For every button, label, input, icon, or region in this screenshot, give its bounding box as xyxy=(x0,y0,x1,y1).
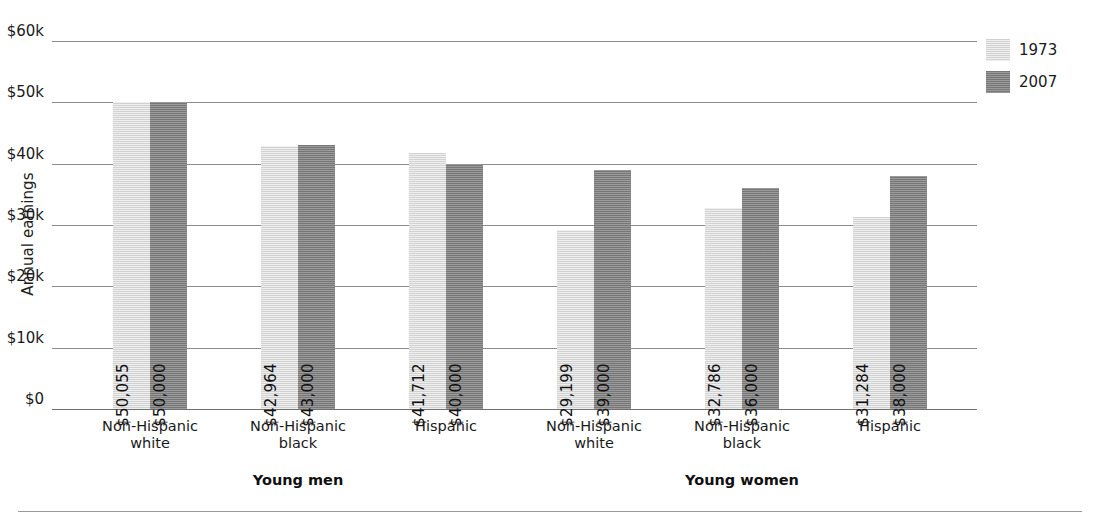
legend-swatch-2007-icon xyxy=(986,71,1010,93)
legend: 1973 2007 xyxy=(986,36,1057,100)
axis-baseline xyxy=(52,409,977,410)
bar-group: $32,786$36,000 xyxy=(705,41,779,409)
group-label: Young men xyxy=(133,472,463,488)
bar-group: $31,284$38,000 xyxy=(853,41,927,409)
bar-2007[interactable]: $38,000 xyxy=(890,176,927,409)
bar-2007[interactable]: $43,000 xyxy=(298,145,335,409)
bar-2007[interactable]: $40,000 xyxy=(446,164,483,409)
y-tick-label: $60k xyxy=(0,22,44,40)
bars-layer: $50,055$50,000$42,964$43,000$41,712$40,0… xyxy=(52,41,977,409)
legend-swatch-1973-icon xyxy=(986,39,1010,61)
y-tick-label: $20k xyxy=(0,267,44,285)
bar-1973[interactable]: $50,055 xyxy=(113,102,150,409)
category-label: Non-Hispanicwhite xyxy=(65,418,235,452)
bar-group: $42,964$43,000 xyxy=(261,41,335,409)
y-tick-label: $40k xyxy=(0,145,44,163)
legend-item-2007[interactable]: 2007 xyxy=(986,68,1057,96)
category-label: Non-Hispanicwhite xyxy=(509,418,679,452)
grouped-bar-chart: Annual earnings $50,055$50,000$42,964$43… xyxy=(0,0,1100,525)
category-label: Non-Hispanicblack xyxy=(657,418,827,452)
bar-1973[interactable]: $41,712 xyxy=(409,153,446,409)
legend-label-1973: 1973 xyxy=(1019,41,1057,59)
category-label-line: black xyxy=(213,435,383,452)
category-label: Non-Hispanicblack xyxy=(213,418,383,452)
bar-1973[interactable]: $29,199 xyxy=(557,230,594,409)
category-label-line: Non-Hispanic xyxy=(657,418,827,435)
bar-2007[interactable]: $50,000 xyxy=(150,102,187,409)
bar-2007[interactable]: $39,000 xyxy=(594,170,631,409)
category-label-line: white xyxy=(509,435,679,452)
y-tick-label: $30k xyxy=(0,206,44,224)
bar-group: $29,199$39,000 xyxy=(557,41,631,409)
bar-1973[interactable]: $42,964 xyxy=(261,146,298,410)
bar-group: $41,712$40,000 xyxy=(409,41,483,409)
plot-area: $50,055$50,000$42,964$43,000$41,712$40,0… xyxy=(52,41,977,409)
category-label-line: black xyxy=(657,435,827,452)
category-label-line: Hispanic xyxy=(805,418,975,435)
category-label-line: Non-Hispanic xyxy=(65,418,235,435)
category-label-line: Non-Hispanic xyxy=(509,418,679,435)
category-label-line: Hispanic xyxy=(361,418,531,435)
bar-1973[interactable]: $31,284 xyxy=(853,217,890,409)
category-label-line: white xyxy=(65,435,235,452)
category-label: Hispanic xyxy=(361,418,531,435)
category-label-line: Non-Hispanic xyxy=(213,418,383,435)
group-label: Young women xyxy=(577,472,907,488)
bar-2007[interactable]: $36,000 xyxy=(742,188,779,409)
y-tick-label: $50k xyxy=(0,83,44,101)
y-tick-label: $0 xyxy=(0,390,44,408)
category-label: Hispanic xyxy=(805,418,975,435)
footer-rule xyxy=(18,511,1082,512)
bar-1973[interactable]: $32,786 xyxy=(705,208,742,409)
y-tick-label: $10k xyxy=(0,329,44,347)
bar-group: $50,055$50,000 xyxy=(113,41,187,409)
legend-item-1973[interactable]: 1973 xyxy=(986,36,1057,64)
legend-label-2007: 2007 xyxy=(1019,73,1057,91)
